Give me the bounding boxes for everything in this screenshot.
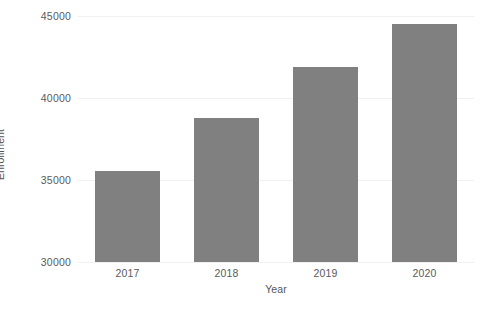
bar <box>194 118 259 262</box>
gridline <box>78 262 474 263</box>
x-tick-label: 2018 <box>214 267 238 279</box>
y-tick-label: 45000 <box>41 10 71 22</box>
y-tick-label: 35000 <box>41 174 71 186</box>
x-tick-label: 2017 <box>115 267 139 279</box>
x-tick-label: 2019 <box>313 267 337 279</box>
bar <box>95 171 160 262</box>
y-tick-label: 40000 <box>41 92 71 104</box>
x-tick-label: 2020 <box>412 267 436 279</box>
bar <box>293 67 358 262</box>
x-axis-title: Year <box>78 283 474 295</box>
y-tick-label: 30000 <box>41 256 71 268</box>
bar-chart-figure: Enrollment 30000350004000045000 20172018… <box>0 0 484 309</box>
bar <box>392 24 457 262</box>
bars-group <box>78 16 474 262</box>
plot-area: 30000350004000045000 2017201820192020 <box>78 16 474 262</box>
